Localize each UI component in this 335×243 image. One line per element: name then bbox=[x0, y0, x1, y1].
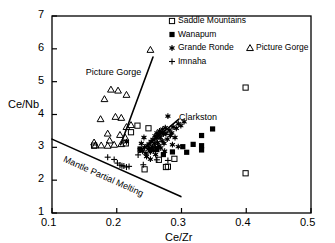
x-tick-label-1: 0.2 bbox=[106, 216, 121, 228]
y-tick-label-4: 5 bbox=[38, 74, 44, 86]
legend-label-grande-ronde: Grande Ronde bbox=[178, 42, 234, 52]
x-tick-label-3: 0.4 bbox=[235, 216, 250, 228]
x-axis-title: Ce/Zr bbox=[165, 231, 193, 243]
y-tick-label-1: 2 bbox=[38, 172, 44, 184]
legend-label-picture-gorge: Picture Gorge bbox=[256, 42, 308, 52]
chart-figure: 0.10.20.30.40.51234567Ce/ZrCe/NbPicture … bbox=[0, 0, 335, 243]
x-tick-label-0: 0.1 bbox=[41, 216, 56, 228]
y-tick-label-6: 7 bbox=[38, 8, 44, 20]
x-tick-label-4: 0.5 bbox=[300, 216, 315, 228]
y-axis-title: Ce/Nb bbox=[8, 98, 39, 110]
legend-label-wanapum: Wanapum bbox=[178, 29, 216, 39]
legend-label-saddle-mountains: Saddle Mountains bbox=[178, 15, 246, 25]
legend-marker-wanapum bbox=[169, 32, 174, 37]
annotation-picture-gorge: Picture Gorge bbox=[86, 67, 142, 77]
scatter-plot bbox=[0, 0, 335, 243]
y-tick-label-5: 6 bbox=[38, 41, 44, 53]
x-tick-label-2: 0.3 bbox=[171, 216, 186, 228]
legend-label-imnaha: Imnaha bbox=[178, 56, 206, 66]
annotation-clarkston: Clarkston bbox=[179, 112, 217, 122]
y-tick-label-2: 3 bbox=[38, 139, 44, 151]
y-tick-label-0: 1 bbox=[38, 205, 44, 217]
